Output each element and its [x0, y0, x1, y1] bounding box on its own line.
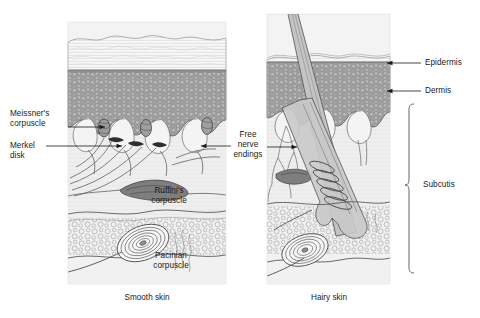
smooth-skin-panel: [68, 22, 226, 284]
label-pacinian-corpuscle: Pacinian corpuscle: [136, 251, 206, 271]
label-dermis: Dermis: [425, 86, 479, 96]
ruffini-corpuscle-right: [276, 169, 312, 184]
label-ruffini-corpuscle: Ruffini's corpuscle: [136, 186, 202, 206]
subcutis-bracket: [405, 104, 414, 273]
label-merkel-disk: Merkel disk: [10, 141, 50, 161]
skin-anatomy-figure: Meissner's corpuscle Merkel disk Ruffini…: [0, 0, 480, 318]
label-subcutis: Subcutis: [423, 180, 477, 190]
caption-hairy-skin: Hairy skin: [290, 293, 368, 303]
caption-smooth-skin: Smooth skin: [105, 293, 189, 303]
hairy-skin-panel: [267, 14, 390, 284]
label-epidermis: Epidermis: [425, 58, 479, 68]
label-free-nerve-endings: Free nerve endings: [228, 130, 268, 161]
label-meissner-corpuscle: Meissner's corpuscle: [10, 109, 76, 129]
